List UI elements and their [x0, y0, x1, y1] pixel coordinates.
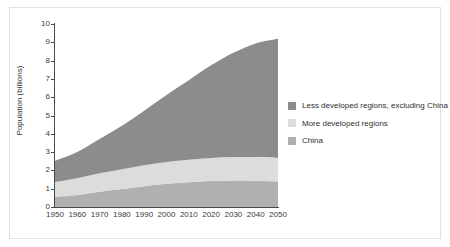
- legend-swatch-icon-0: [288, 102, 296, 110]
- legend-label-0: Less developed regions, excluding China: [302, 101, 448, 110]
- y-tick-label-3: 3: [28, 148, 50, 156]
- legend-swatch-icon-2: [288, 137, 296, 145]
- y-tick-label-10: 10: [28, 20, 50, 28]
- y-tick-label-9: 9: [28, 38, 50, 46]
- x-tick-label-2050: 2050: [263, 211, 293, 219]
- y-tick-label-7: 7: [28, 75, 50, 83]
- y-tick-label-4: 4: [28, 130, 50, 138]
- population-chart-figure: Population (billions) 012345678910 19501…: [0, 0, 450, 247]
- y-tick-label-6: 6: [28, 93, 50, 101]
- legend-item-1[interactable]: More developed regions: [288, 119, 443, 128]
- legend-item-0[interactable]: Less developed regions, excluding China: [288, 101, 443, 110]
- y-tick-label-8: 8: [28, 57, 50, 65]
- stacked-area-svg: [55, 24, 278, 207]
- x-axis-ticks: 1950196019701980199020002010202020302040…: [0, 211, 450, 225]
- y-tick-label-5: 5: [28, 112, 50, 120]
- y-tick-label-2: 2: [28, 166, 50, 174]
- plot-area: [55, 24, 278, 207]
- chart-legend: Less developed regions, excluding ChinaM…: [288, 101, 443, 154]
- legend-item-2[interactable]: China: [288, 136, 443, 145]
- y-tick-label-1: 1: [28, 185, 50, 193]
- legend-swatch-icon-1: [288, 119, 296, 127]
- y-axis-title: Population (billions): [15, 41, 24, 161]
- x-axis-line: [54, 207, 279, 208]
- legend-label-1: More developed regions: [302, 119, 388, 128]
- legend-label-2: China: [302, 136, 323, 145]
